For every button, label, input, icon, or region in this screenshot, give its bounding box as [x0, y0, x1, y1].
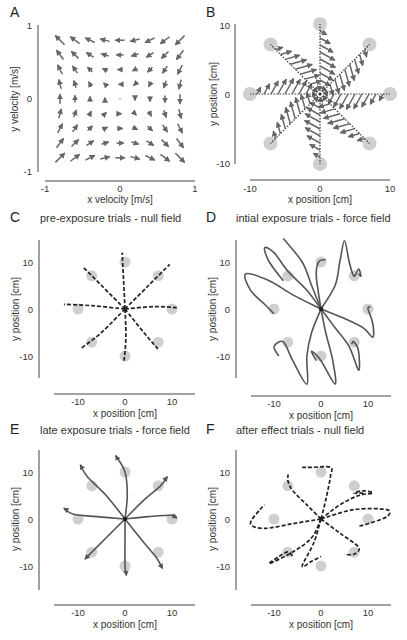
- target-circle: [86, 270, 97, 281]
- force-arrow: [264, 84, 270, 94]
- panel-b: B 10 0 -10 -10 0 10 x position [cm] y po…: [206, 4, 397, 205]
- start-point: [319, 307, 323, 311]
- xtick: 0: [318, 398, 323, 409]
- force-arrow: [57, 50, 64, 59]
- force-arrow: [101, 142, 108, 144]
- panel-letter-f: F: [206, 421, 215, 437]
- force-arrow: [301, 95, 305, 109]
- force-arrow: [175, 36, 184, 45]
- panel-title: pre-exposure trials - null field: [40, 212, 181, 224]
- target-circle: [120, 257, 131, 268]
- panel-letter-d: D: [206, 209, 216, 225]
- xtick: -10: [71, 607, 85, 618]
- force-arrow: [347, 94, 356, 109]
- force-arrow: [320, 45, 333, 52]
- target-circle: [316, 467, 327, 478]
- y-axis-label: y position [cm]: [207, 487, 218, 551]
- force-arrow: [133, 127, 138, 129]
- ytick: 10: [219, 20, 230, 31]
- xtick: 10: [363, 607, 374, 618]
- force-arrow: [335, 79, 339, 93]
- ytick: 0: [225, 514, 230, 525]
- force-arrow: [131, 54, 138, 56]
- ytick: 0: [225, 304, 230, 315]
- trajectory: [125, 519, 163, 568]
- panel-title: intial exposure trials - force field: [236, 212, 391, 224]
- y-axis-label: y position [cm]: [10, 277, 21, 341]
- force-arrow: [285, 79, 294, 94]
- target-circle: [153, 480, 164, 491]
- force-along-paths: [243, 17, 397, 171]
- xtick: 0: [318, 607, 323, 618]
- force-arrow: [296, 98, 301, 114]
- panel-title: after effect trials - null field: [236, 424, 364, 436]
- force-arrow: [307, 136, 320, 143]
- panel-title: late exposure trials - force field: [40, 424, 190, 436]
- force-arrow: [160, 154, 169, 161]
- force-arrow: [360, 54, 363, 65]
- force-arrow: [320, 66, 335, 74]
- force-arrow: [145, 38, 154, 43]
- force-arrow: [278, 79, 286, 94]
- ytick: -10: [216, 561, 230, 572]
- force-arrow: [74, 110, 76, 117]
- panel-letter-a: A: [10, 4, 20, 20]
- force-arrow: [350, 64, 355, 80]
- force-arrow: [379, 94, 383, 101]
- force-arrow: [86, 53, 93, 58]
- force-arrow: [280, 51, 291, 54]
- force-arrow: [178, 65, 183, 74]
- force-arrow: [100, 39, 109, 41]
- panel-d: D intial exposure trials - force field 1…: [206, 209, 391, 421]
- target-circle: [269, 514, 280, 525]
- force-arrow: [148, 126, 153, 131]
- force-arrow: [281, 114, 285, 128]
- panel-c: C pre-exposure trials - null field 100-1…: [10, 209, 195, 419]
- force-arrow: [328, 119, 345, 124]
- force-arrow: [307, 108, 320, 115]
- force-arrow: [149, 111, 151, 116]
- force-arrow: [70, 154, 79, 161]
- force-arrow: [103, 127, 108, 129]
- force-arrow: [305, 75, 319, 79]
- force-arrow: [72, 51, 79, 58]
- force-arrow: [175, 153, 184, 162]
- panel-f: F after effect trials - null field 100-1…: [206, 421, 391, 630]
- quiver-field: [55, 36, 184, 163]
- force-arrow: [320, 52, 335, 60]
- force-arrow: [73, 125, 78, 132]
- force-arrow: [130, 39, 139, 41]
- force-arrow: [320, 31, 327, 35]
- trajectory: [85, 519, 125, 559]
- force-arrow: [55, 36, 64, 45]
- xtick: -10: [267, 607, 281, 618]
- x-axis-label: x position [cm]: [289, 410, 353, 421]
- xtick: 10: [167, 396, 178, 407]
- trajectory: [274, 309, 321, 384]
- force-arrow: [320, 73, 333, 80]
- force-arrow: [313, 153, 320, 157]
- force-arrow: [59, 109, 61, 118]
- force-arrow: [348, 134, 359, 137]
- target-circle: [153, 337, 164, 348]
- xtick: 10: [167, 607, 178, 618]
- start-point: [319, 517, 323, 521]
- force-arrow: [179, 80, 181, 89]
- force-arrow: [178, 124, 183, 133]
- xtick: -10: [267, 398, 281, 409]
- force-arrow: [130, 157, 139, 159]
- force-arrow: [310, 144, 320, 150]
- force-arrow: [340, 74, 345, 90]
- xtick: -10: [243, 183, 257, 194]
- panel-letter-c: C: [10, 209, 20, 225]
- force-arrow: [354, 94, 362, 109]
- target-circle: [167, 304, 178, 315]
- force-arrow: [134, 112, 137, 115]
- force-arrow: [257, 87, 261, 94]
- panel-letter-e: E: [10, 421, 19, 437]
- force-arrow: [177, 50, 184, 59]
- ytick: 10: [22, 467, 33, 478]
- force-arrow: [321, 109, 335, 113]
- panel-letter-b: B: [206, 4, 215, 20]
- force-arrow: [295, 64, 312, 69]
